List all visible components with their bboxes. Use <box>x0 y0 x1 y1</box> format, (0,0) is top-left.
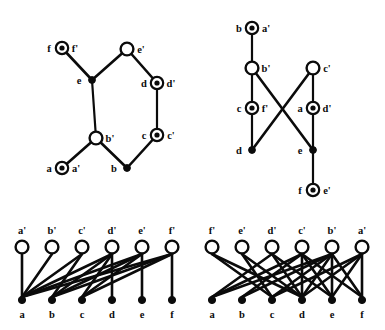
top-label-ap: a' <box>18 225 26 236</box>
node-fe-right-label: e' <box>323 185 331 196</box>
bottom-label-c: c <box>80 309 85 320</box>
bottom-node-f[interactable] <box>168 296 175 303</box>
node-e2-left-label: e <box>298 145 303 156</box>
node-aa[interactable] <box>56 162 68 174</box>
node-bp2[interactable] <box>246 62 259 75</box>
node-d2[interactable] <box>249 147 256 154</box>
bottom-label-e: e <box>330 309 335 320</box>
edge-bp-e <box>92 80 96 138</box>
top-label-ep: e' <box>238 225 246 236</box>
node-dd-right-label: d' <box>167 78 176 89</box>
top-node-ep[interactable] <box>136 241 149 254</box>
top-node-dp[interactable] <box>106 241 119 254</box>
bottom-node-e[interactable] <box>138 296 145 303</box>
bottom-node-f[interactable] <box>358 296 365 303</box>
bottom-label-a: a <box>209 309 215 320</box>
bottom-label-c: c <box>270 309 275 320</box>
bottom-node-c[interactable] <box>78 296 85 303</box>
node-cc-left-label: c <box>142 130 147 141</box>
node-ad-right-label: d' <box>323 103 332 114</box>
node-b-left-label: b <box>111 163 117 174</box>
panel-top-left: f f' e e' d d' c c' b' <box>0 0 195 200</box>
top-node-dp[interactable] <box>266 241 279 254</box>
node-ad-left-label: a <box>297 103 303 114</box>
top-node-fp[interactable] <box>166 241 179 254</box>
node-ff-left-label: f <box>47 43 51 54</box>
top-node-ap[interactable] <box>356 241 369 254</box>
bottom-label-e: e <box>140 309 145 320</box>
bottom-node-a[interactable] <box>18 296 25 303</box>
node-bp2-right-label: b' <box>262 63 271 74</box>
node-ba[interactable] <box>246 22 258 34</box>
bottom-label-d: d <box>299 309 305 320</box>
panel-bottom-left: a'b'c'd'e'f'abcdef <box>0 205 195 330</box>
top-node-bp[interactable] <box>326 241 339 254</box>
node-cc[interactable] <box>151 129 163 141</box>
top-label-cp: c' <box>298 225 306 236</box>
node-cp2[interactable] <box>307 62 320 75</box>
bottom-node-b[interactable] <box>48 296 55 303</box>
top-label-fp: f' <box>209 225 215 236</box>
top-node-ap[interactable] <box>16 241 29 254</box>
node-aa-left-label: a <box>46 163 52 174</box>
node-cf[interactable] <box>246 102 258 114</box>
bottom-label-d: d <box>109 309 115 320</box>
labels-bottom-right: f'e'd'c'b'a'abcdef <box>209 225 366 320</box>
bottom-node-d[interactable] <box>298 296 305 303</box>
node-e[interactable] <box>89 77 96 84</box>
node-ep-right-label: e' <box>137 44 145 55</box>
bottom-node-d[interactable] <box>108 296 115 303</box>
node-bp-right-label: b' <box>106 133 115 144</box>
bottom-label-b: b <box>49 309 55 320</box>
node-ff-right-label: f' <box>72 43 78 54</box>
node-ad[interactable] <box>307 102 319 114</box>
node-d2-left-label: d <box>236 145 242 156</box>
top-label-cp: c' <box>78 225 86 236</box>
bottom-node-e[interactable] <box>328 296 335 303</box>
bottom-node-c[interactable] <box>268 296 275 303</box>
bottom-label-f: f <box>360 309 364 320</box>
node-b[interactable] <box>124 165 131 172</box>
top-label-ap: a' <box>358 225 366 236</box>
bottom-label-a: a <box>19 309 25 320</box>
node-dd[interactable] <box>151 77 163 89</box>
node-dd-left-label: d <box>141 78 147 89</box>
top-node-ep[interactable] <box>236 241 249 254</box>
edges-bottom-right <box>212 254 362 297</box>
top-label-ep: e' <box>138 225 146 236</box>
top-label-dp: d' <box>108 225 117 236</box>
bottom-label-b: b <box>239 309 245 320</box>
node-fe-left-label: f <box>298 185 302 196</box>
top-node-cp[interactable] <box>76 241 89 254</box>
bottom-node-a[interactable] <box>208 296 215 303</box>
bottom-node-b[interactable] <box>238 296 245 303</box>
node-cf-left-label: c <box>237 103 242 114</box>
top-node-fp[interactable] <box>206 241 219 254</box>
node-bp[interactable] <box>90 132 103 145</box>
top-label-fp: f' <box>169 225 175 236</box>
node-ba-left-label: b <box>236 23 242 34</box>
node-ep[interactable] <box>121 43 134 56</box>
node-e2[interactable] <box>310 147 317 154</box>
edges-bottom-left <box>22 254 172 297</box>
node-ba-right-label: a' <box>262 23 270 34</box>
node-ff[interactable] <box>56 42 68 54</box>
node-cp2-right-label: c' <box>323 63 331 74</box>
top-label-bp: b' <box>48 225 57 236</box>
top-label-dp: d' <box>268 225 277 236</box>
node-aa-right-label: a' <box>72 163 80 174</box>
node-e-left-label: e <box>77 75 82 86</box>
top-label-bp: b' <box>328 225 337 236</box>
edges-top-left <box>62 48 157 168</box>
node-fe[interactable] <box>307 184 319 196</box>
node-cf-right-label: f' <box>262 103 268 114</box>
top-node-bp[interactable] <box>46 241 59 254</box>
labels-bottom-left: a'b'c'd'e'f'abcdef <box>18 225 175 320</box>
figure-root: f f' e e' d d' c c' b' <box>0 0 385 330</box>
panel-bottom-right: f'e'd'c'b'a'abcdef <box>190 205 385 330</box>
node-cc-right-label: c' <box>167 130 175 141</box>
bottom-label-f: f <box>170 309 174 320</box>
panel-top-right: b a' b' c f' d c' a d' <box>190 0 385 205</box>
top-node-cp[interactable] <box>296 241 309 254</box>
